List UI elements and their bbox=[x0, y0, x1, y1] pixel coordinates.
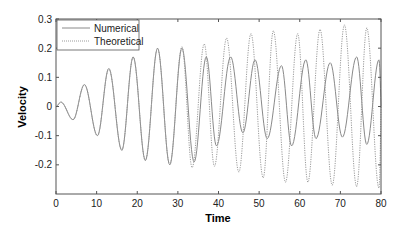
y-tick-label: 0.1 bbox=[38, 72, 52, 83]
x-axis-label: Time bbox=[205, 212, 230, 224]
x-tick-label: 60 bbox=[294, 198, 306, 209]
x-tick-label: 50 bbox=[254, 198, 266, 209]
x-tick-label: 80 bbox=[375, 198, 387, 209]
legend-label-theoretical: Theoretical bbox=[94, 36, 143, 47]
series-numerical bbox=[56, 48, 381, 165]
x-tick-label: 70 bbox=[335, 198, 347, 209]
y-tick-label: -0.2 bbox=[35, 159, 53, 170]
x-tick-label: 40 bbox=[213, 198, 225, 209]
x-tick-label: 0 bbox=[53, 198, 59, 209]
legend: Numerical Theoretical bbox=[57, 20, 143, 50]
x-tick-label: 30 bbox=[172, 198, 184, 209]
velocity-time-chart: 01020304050607080 0.30.20.10-0.1-0.2 Tim… bbox=[0, 0, 403, 230]
y-axis-label: Velocity bbox=[16, 85, 28, 127]
y-tick-label: 0 bbox=[46, 101, 52, 112]
y-tick-label: 0.3 bbox=[38, 14, 52, 25]
x-tick-label: 20 bbox=[132, 198, 144, 209]
y-tick-label: -0.1 bbox=[35, 130, 53, 141]
x-tick-label: 10 bbox=[91, 198, 103, 209]
legend-label-numerical: Numerical bbox=[94, 23, 139, 34]
y-tick-label: 0.2 bbox=[38, 43, 52, 54]
